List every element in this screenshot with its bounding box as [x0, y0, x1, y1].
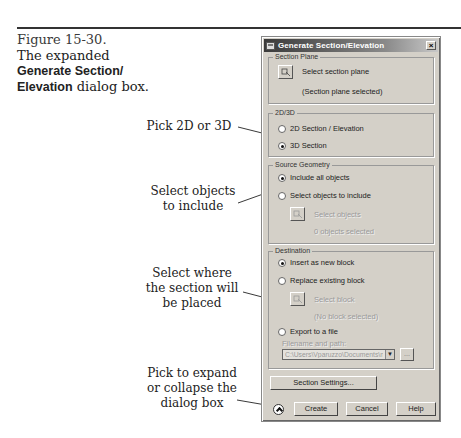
radio-2d-section[interactable]: 2D Section / Elevation	[278, 124, 364, 133]
radio-indicator-selected	[278, 142, 286, 150]
select-objects-label: Select objects	[314, 210, 361, 219]
block-status: (No block selected)	[314, 312, 378, 321]
chevron-down-icon[interactable]: ▼	[385, 350, 394, 359]
destination-legend: Destination	[273, 247, 312, 254]
browse-button[interactable]: ...	[400, 348, 414, 361]
source-geometry-legend: Source Geometry	[273, 161, 332, 168]
section-settings-button[interactable]: Section Settings...	[270, 376, 377, 390]
collapse-expand-button[interactable]	[273, 404, 284, 415]
radio-export-to-file[interactable]: Export to a file	[278, 327, 338, 336]
help-button[interactable]: Help	[396, 402, 436, 416]
caption-tail: dialog box.	[73, 79, 149, 94]
section-plane-group: Section Plane Select section plane (Sect…	[268, 57, 434, 104]
radio-replace-existing-block[interactable]: Replace existing block	[278, 276, 365, 285]
select-block-button[interactable]	[290, 292, 305, 306]
figure-caption: Figure 15-30. The expanded Generate Sect…	[17, 32, 217, 95]
radio-select-objects[interactable]: Select objects to include	[278, 191, 371, 200]
mode-legend: 2D/3D	[273, 109, 297, 116]
section-plane-status: (Section plane selected)	[302, 87, 382, 96]
pick-cursor-icon	[293, 210, 303, 219]
annotation-expand-collapse: Pick to expand or collapse the dialog bo…	[142, 366, 242, 411]
radio-indicator	[278, 277, 286, 285]
pick-cursor-icon	[281, 68, 291, 77]
cancel-button[interactable]: Cancel	[346, 402, 388, 416]
radio-indicator-selected	[278, 259, 286, 267]
annotation-pick-2d-3d: Pick 2D or 3D	[142, 119, 236, 134]
caption-bold-2: Elevation	[17, 80, 73, 94]
annotation-destination: Select where the section will be placed	[142, 266, 242, 311]
filename-value: C:\Users\Vparuzzo\Documents\new	[285, 351, 383, 358]
dialog-titlebar[interactable]: Generate Section/Elevation ×	[264, 39, 438, 52]
source-geometry-group: Source Geometry Include all objects Sele…	[268, 165, 434, 244]
radio-insert-new-block[interactable]: Insert as new block	[278, 258, 354, 267]
radio-indicator-selected	[278, 174, 286, 182]
header-rule	[17, 27, 461, 29]
radio-indicator	[278, 192, 286, 200]
filename-label: Filename and path:	[282, 339, 346, 348]
caption-bold-1: Generate Section/	[17, 64, 123, 78]
create-button[interactable]: Create	[294, 402, 338, 416]
objects-selected-status: 0 objects selected	[314, 227, 374, 236]
app-icon	[266, 42, 275, 50]
radio-indicator	[278, 125, 286, 133]
select-objects-button[interactable]	[290, 207, 305, 221]
destination-group: Destination Insert as new block Replace …	[268, 251, 434, 369]
figure-number: Figure 15-30.	[17, 32, 217, 48]
annotation-select-objects: Select objects to include	[150, 184, 236, 214]
mode-group: 2D/3D 2D Section / Elevation 3D Section	[268, 113, 434, 157]
close-button[interactable]: ×	[426, 41, 436, 50]
section-plane-legend: Section Plane	[273, 53, 320, 60]
caption-line-1: The expanded	[17, 48, 217, 63]
select-section-plane-label: Select section plane	[302, 67, 369, 76]
radio-include-all-objects[interactable]: Include all objects	[278, 173, 350, 182]
pick-cursor-icon	[293, 295, 303, 304]
select-block-label: Select block	[314, 295, 354, 304]
radio-3d-section[interactable]: 3D Section	[278, 141, 327, 150]
select-section-plane-button[interactable]	[278, 65, 293, 79]
radio-indicator	[278, 328, 286, 336]
filename-combo[interactable]: C:\Users\Vparuzzo\Documents\new ▼	[282, 349, 395, 360]
dialog-title: Generate Section/Elevation	[278, 41, 384, 50]
generate-section-dialog: Generate Section/Elevation × Section Pla…	[261, 36, 441, 422]
